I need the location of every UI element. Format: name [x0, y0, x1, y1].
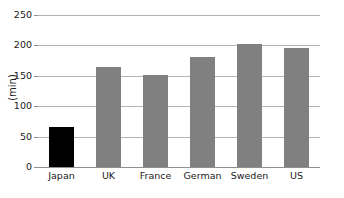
- y-tick-mark-0: [34, 167, 38, 168]
- x-tick-label-us: US: [267, 171, 327, 181]
- bar-sweden: [237, 44, 262, 167]
- x-axis-labels: JapanUKFranceGermanSwedenUS: [38, 169, 320, 185]
- y-tick-label-0: 0: [2, 162, 32, 172]
- y-tick-label-50: 50: [2, 132, 32, 142]
- bar-japan: [49, 127, 74, 167]
- bar-chart: (min) 050100150200250 JapanUKFranceGerma…: [0, 0, 344, 198]
- y-tick-label-250: 250: [2, 10, 32, 20]
- bar-uk: [96, 67, 121, 167]
- bar-german: [190, 57, 215, 167]
- y-tick-label-200: 200: [2, 41, 32, 51]
- y-tick-label-100: 100: [2, 101, 32, 111]
- bars-group: [38, 15, 320, 167]
- bar-us: [284, 48, 309, 167]
- bar-france: [143, 75, 168, 167]
- y-tick-label-150: 150: [2, 71, 32, 81]
- plot-area: 050100150200250: [38, 15, 320, 167]
- gridline-0: [38, 167, 320, 168]
